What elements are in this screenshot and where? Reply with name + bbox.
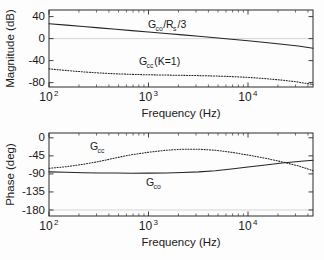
x-tick-label-base: 10 [39,90,53,104]
y-tick-label: -135 [22,185,45,197]
x-axis-title: Frequency (Hz) [141,236,220,248]
curve-annotation: Gco/Rs/3 [148,18,186,32]
phase-plot-panel: 0-45-90-135-180102103104Frequency (Hz)Ph… [0,126,324,260]
bode-figure: 400-40-80102103104Frequency (Hz)Magnitud… [0,0,324,260]
curve-annotation: Gcc [90,140,105,154]
y-tick-label: 0 [39,32,45,44]
x-tick-label-base: 10 [139,90,153,104]
x-tick-label-base: 10 [238,219,252,233]
x-tick-label-exponent: 3 [154,218,159,227]
annotation-tail-subscript: s [173,25,177,32]
y-tick-label: -180 [22,204,45,216]
y-tick-label: 40 [32,10,45,22]
magnitude-plot-svg: 400-40-80102103104Frequency (Hz)Magnitud… [0,0,324,134]
x-tick-label-base: 10 [39,219,53,233]
y-tick-label: -80 [28,76,45,88]
x-axis-title: Frequency (Hz) [141,107,220,119]
x-tick-label-exponent: 2 [54,89,59,98]
y-axis-title: Magnitude (dB) [4,9,16,88]
series-curve-dotted [49,149,313,170]
annotation-subscript: cc [147,62,154,69]
annotation-subscript: cc [98,147,105,154]
annotation-subscript: co [154,183,161,190]
y-tick-label: -45 [28,149,45,161]
annotation-subscript: co [156,25,163,32]
x-tick-label-base: 10 [238,90,252,104]
annotation-tail2: /3 [178,18,187,30]
axes-box [49,133,313,216]
x-tick-label-base: 10 [139,219,153,233]
x-tick-label-exponent: 3 [154,89,159,98]
annotation-tail: (K=1) [154,55,180,67]
phase-plot-svg: 0-45-90-135-180102103104Frequency (Hz)Ph… [0,126,324,260]
curve-annotation: Gco [146,176,161,190]
y-axis-title: Phase (deg) [4,143,16,206]
magnitude-plot-panel: 400-40-80102103104Frequency (Hz)Magnitud… [0,0,324,128]
y-tick-label: -40 [28,54,45,66]
y-tick-label: -90 [28,167,45,179]
series-curve-solid [49,160,313,173]
x-tick-label-exponent: 2 [54,218,59,227]
y-tick-label: 0 [39,131,45,143]
series-curve-dotted [49,69,313,85]
x-tick-label-exponent: 4 [253,218,258,227]
curve-annotation: Gcc(K=1) [139,55,180,69]
x-tick-label-exponent: 4 [253,89,258,98]
